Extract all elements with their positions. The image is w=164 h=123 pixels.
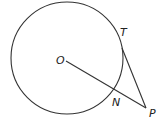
circle-tangent-diagram: O T N P [0,0,164,123]
label-N: N [112,96,120,109]
label-P: P [149,107,156,120]
circle [11,2,123,114]
label-O: O [56,54,65,67]
label-T: T [120,26,128,39]
segment-OP [66,61,146,108]
tangent-PT [122,48,146,108]
